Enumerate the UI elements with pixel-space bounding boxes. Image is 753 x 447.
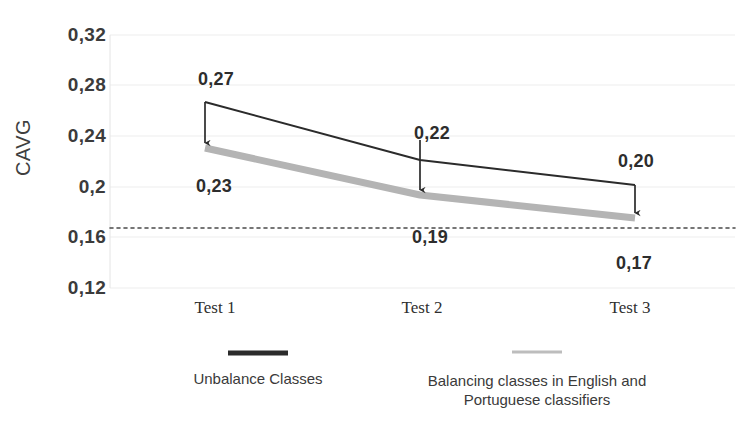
x-tick-test-2: Test 2 <box>402 298 443 318</box>
data-label-gray-test1: 0,23 <box>196 176 232 197</box>
legend-label-balancing-classes: Balancing classes in English and Portugu… <box>387 372 687 410</box>
x-tick-test-1: Test 1 <box>195 298 236 318</box>
legend-label-balancing-line2: Portuguese classifiers <box>464 391 611 408</box>
data-label-gray-test2: 0,19 <box>412 227 448 248</box>
legend-label-balancing-line1: Balancing classes in English and <box>428 372 646 389</box>
x-tick-test-3: Test 3 <box>610 298 651 318</box>
chart-container: CAVG 0,32 0,28 0,24 0,2 0,16 0,12 <box>0 0 753 447</box>
data-label-black-test3: 0,20 <box>618 151 654 172</box>
data-label-black-test1: 0,27 <box>198 69 234 90</box>
data-label-gray-test3: 0,17 <box>616 253 652 274</box>
data-label-black-test2: 0,22 <box>414 123 450 144</box>
legend-label-unbalance-classes: Unbalance Classes <box>148 370 368 389</box>
